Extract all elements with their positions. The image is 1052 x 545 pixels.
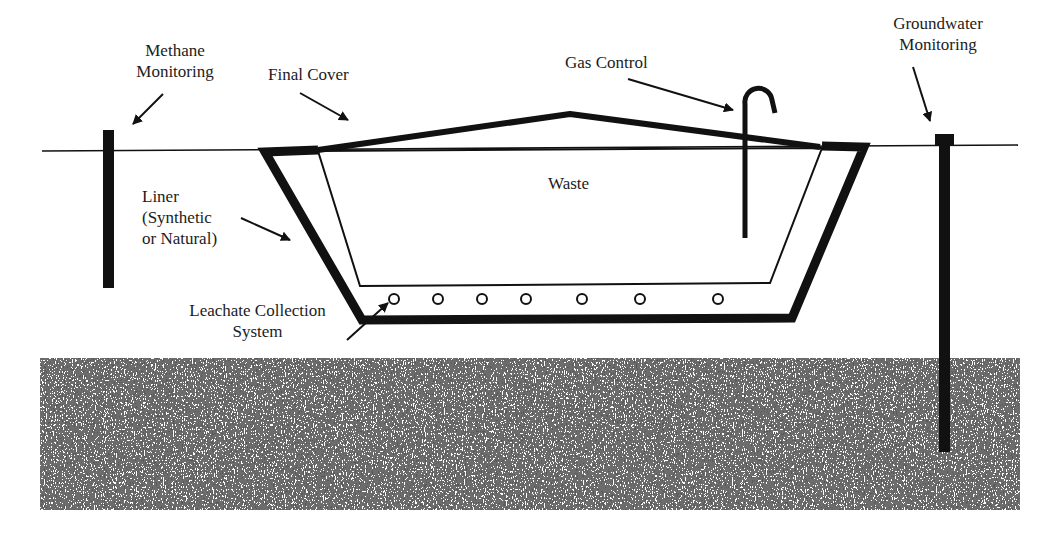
pipe-icon — [577, 294, 587, 304]
gas-control-arrow — [628, 79, 733, 110]
groundwater-arrow — [913, 67, 930, 121]
pipe-icon — [477, 294, 487, 304]
liner-label: Liner (Synthetic or Natural) — [142, 186, 217, 249]
pipe-icon — [389, 294, 399, 304]
final-cover-label: Final Cover — [268, 64, 349, 85]
gas-control-vent — [745, 88, 775, 238]
methane-arrow — [133, 94, 163, 124]
liner-arrow — [241, 218, 290, 240]
leachate-collection-pipes — [389, 294, 723, 304]
gas-control-label: Gas Control — [565, 52, 648, 73]
leachate-collection-label: Leachate Collection System — [160, 300, 355, 342]
groundwater-monitoring-label: Groundwater Monitoring — [880, 13, 996, 55]
pipe-icon — [713, 294, 723, 304]
pipe-icon — [635, 294, 645, 304]
methane-monitoring-label: Methane Monitoring — [120, 40, 230, 82]
pipe-icon — [521, 294, 531, 304]
methane-monitoring-probe — [103, 130, 114, 288]
pipe-icon — [433, 294, 443, 304]
soil-stratum — [40, 358, 1020, 510]
final-cover-arrow — [300, 93, 348, 120]
waste-label: Waste — [548, 173, 589, 194]
